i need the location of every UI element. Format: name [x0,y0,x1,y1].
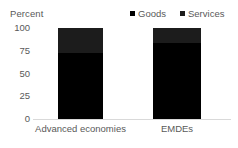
x-axis-label-emdes: EMDEs [117,124,237,134]
y-tick-label: 50 [2,69,30,79]
y-tick-label: 100 [2,23,30,33]
stacked-bar-chart: Percent Goods Services 0255075100 Advanc… [0,0,238,148]
bar-segment[interactable] [58,53,103,119]
square-marker-icon [130,11,135,16]
square-marker-icon [180,11,185,16]
bar-column[interactable] [153,28,201,119]
y-axis-title: Percent [10,8,43,19]
bar-column[interactable] [58,28,103,119]
y-axis-tick-labels: 0255075100 [0,28,30,119]
x-axis-baseline [33,119,231,120]
legend-item-services[interactable]: Services [180,9,224,19]
plot-area [33,28,229,119]
chart-legend: Goods Services [130,9,224,19]
bar-segment[interactable] [153,28,201,43]
bar-segment[interactable] [58,28,103,53]
legend-label-goods: Goods [138,9,166,19]
legend-item-goods[interactable]: Goods [130,9,166,19]
legend-label-services: Services [188,9,224,19]
y-tick-label: 75 [2,46,30,56]
y-tick-label: 0 [2,114,30,124]
y-tick-label: 25 [2,91,30,101]
bar-segment[interactable] [153,43,201,119]
